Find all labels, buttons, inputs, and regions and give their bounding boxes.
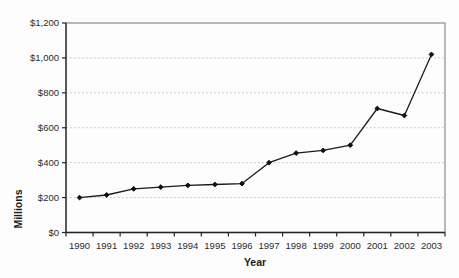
x-tick-label: 2002 [394,240,415,251]
x-tick-label: 1996 [231,240,252,251]
x-tick-label: 2000 [340,240,361,251]
y-tick-label: $600 [38,122,59,133]
x-tick-label: 1992 [123,240,144,251]
y-tick-label: $0 [48,227,59,238]
y-tick-label: $200 [38,192,59,203]
chart-screenshot: $0$200$400$600$800$1,000$1,2001990199119… [0,0,459,278]
data-point-1991 [104,193,109,198]
data-point-2003 [429,52,434,57]
data-point-1994 [185,183,190,188]
y-tick-label: $1,000 [30,52,59,63]
series-line [80,54,432,197]
y-axis-title: Millions [12,189,24,228]
x-tick-label: 1994 [177,240,198,251]
x-tick-label: 1993 [150,240,171,251]
data-point-1990 [77,195,82,200]
y-tick-label: $1,200 [30,17,59,28]
x-tick-label: 1998 [286,240,307,251]
x-tick-label: 1995 [204,240,225,251]
data-point-1993 [158,185,163,190]
x-tick-label: 1999 [313,240,334,251]
x-tick-label: 1990 [69,240,90,251]
data-point-2002 [402,113,407,118]
x-tick-label: 1997 [258,240,279,251]
line-chart-plot: $0$200$400$600$800$1,000$1,2001990199119… [0,0,459,278]
data-point-1998 [294,151,299,156]
x-axis-title: Year [244,256,266,268]
x-tick-label: 2003 [421,240,442,251]
data-point-1999 [321,148,326,153]
y-tick-label: $400 [38,157,59,168]
x-tick-label: 1991 [96,240,117,251]
data-point-1992 [131,186,136,191]
x-tick-label: 2001 [367,240,388,251]
y-tick-label: $800 [38,87,59,98]
data-point-1995 [212,182,217,187]
